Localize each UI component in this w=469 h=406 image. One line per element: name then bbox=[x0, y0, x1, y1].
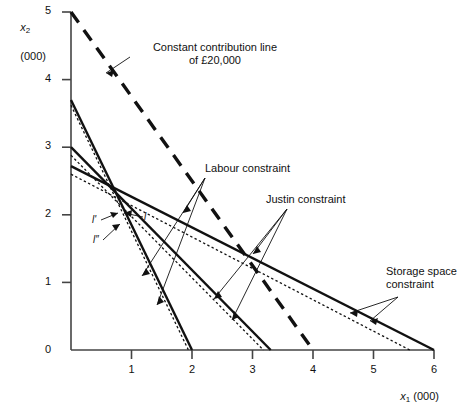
line-storage-space-constraint bbox=[71, 166, 434, 350]
y-tick-label-3: 3 bbox=[40, 139, 56, 151]
arrowhead-contribution bbox=[106, 70, 114, 77]
x-axis-unit: (000) bbox=[413, 390, 439, 402]
line-justin-constraint-shifted bbox=[71, 155, 263, 350]
y-axis-title: x2 (000) bbox=[8, 8, 46, 76]
arrowhead-storage-b bbox=[350, 310, 358, 317]
annotation-labour-constraint: Labour constraint bbox=[205, 162, 290, 175]
x-tick-label-2: 2 bbox=[184, 363, 200, 375]
leader-storage-a bbox=[370, 297, 398, 321]
x-tick-label-5: 5 bbox=[366, 363, 382, 375]
line-storage-space-constraint-shifted bbox=[71, 174, 410, 350]
annotation-constant-contribution: Constant contribution lineof £20,000 bbox=[130, 41, 300, 67]
y-axis-subscript: 2 bbox=[26, 26, 30, 35]
leader-contribution bbox=[106, 57, 130, 73]
line-labour-constraint bbox=[71, 100, 192, 350]
leader-justin-c bbox=[253, 209, 287, 254]
line-labour-constraint-shifted bbox=[71, 105, 188, 350]
x-tick-label-6: 6 bbox=[426, 363, 442, 375]
x-tick-label-4: 4 bbox=[305, 363, 321, 375]
arrowhead-point-l-prime bbox=[110, 212, 118, 218]
x-axis-title: x1 (000) bbox=[388, 377, 439, 406]
y-axis-ticks bbox=[62, 12, 71, 282]
callout-leaders bbox=[101, 57, 398, 325]
annotation-justin-constraint: Justin constraint bbox=[266, 193, 345, 206]
point-label-l-double-prime: l″ bbox=[93, 234, 99, 245]
x-tick-label-3: 3 bbox=[245, 363, 261, 375]
x-axis-subscript: 1 bbox=[406, 395, 410, 404]
point-label-l-prime: l' bbox=[92, 214, 96, 225]
y-tick-label-2: 2 bbox=[40, 207, 56, 219]
y-axis-unit: (000) bbox=[20, 50, 46, 62]
arrowhead-labour-c bbox=[183, 205, 191, 213]
annotation-storage-space-constraint: Storage spaceconstraint bbox=[386, 265, 457, 291]
y-tick-label-1: 1 bbox=[40, 275, 56, 287]
point-label-l: l bbox=[144, 211, 146, 222]
x-tick-label-1: 1 bbox=[124, 363, 140, 375]
y-tick-label-0: 0 bbox=[40, 343, 56, 355]
x-axis-ticks bbox=[132, 350, 435, 359]
arrowhead-labour-a bbox=[142, 268, 150, 276]
